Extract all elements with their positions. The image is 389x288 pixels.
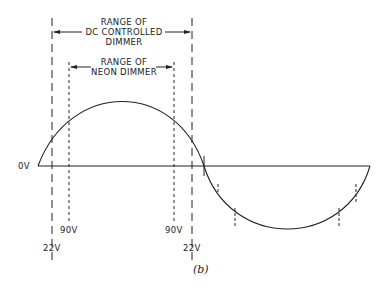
dc-range-label: RANGE OF DC CONTROLLED DIMMER <box>82 17 166 47</box>
zero-volt-label: 0V <box>18 161 30 171</box>
left-22v-label: 22V <box>43 243 61 253</box>
arrow-left-icon <box>53 30 60 34</box>
right-22v-label: 22V <box>183 243 201 253</box>
right-90v-label: 90V <box>165 225 183 235</box>
arrow-right-icon <box>184 30 191 34</box>
left-90v-label: 90V <box>60 225 78 235</box>
arrow-right-icon <box>166 65 173 69</box>
arrow-left-icon <box>70 65 77 69</box>
neon-range-label: RANGE OF NEON DIMMER <box>91 57 157 77</box>
figure-caption: (b) <box>193 263 209 276</box>
